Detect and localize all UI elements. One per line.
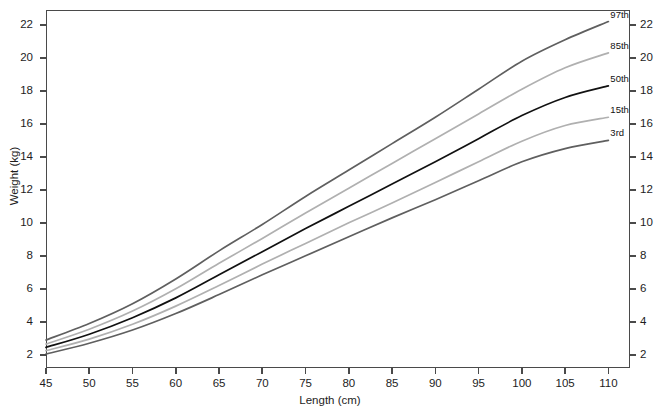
x-tick-mark-50 (88, 368, 90, 374)
y-tick-mark-right-18 (630, 90, 636, 92)
y-tick-label-right-20: 20 (640, 52, 653, 64)
y-tick-mark-left-16 (40, 123, 46, 125)
y-tick-label-left-6: 6 (0, 283, 33, 295)
series-label-85th: 85th (610, 41, 629, 51)
y-tick-label-right-16: 16 (640, 118, 653, 130)
series-label-50th: 50th (610, 74, 629, 84)
y-tick-label-right-22: 22 (640, 19, 653, 31)
x-tick-label-95: 95 (459, 378, 499, 390)
x-tick-label-90: 90 (415, 378, 455, 390)
x-tick-label-60: 60 (156, 378, 196, 390)
x-tick-label-80: 80 (329, 378, 369, 390)
x-tick-label-100: 100 (502, 378, 542, 390)
percentile-line-50th (46, 86, 608, 347)
y-tick-mark-left-10 (40, 222, 46, 224)
percentile-curves (46, 10, 630, 368)
x-tick-label-50: 50 (69, 378, 109, 390)
y-axis-title: Weight (kg) (8, 136, 20, 216)
growth-chart: 246810121416182022 246810121416182022 45… (0, 0, 660, 414)
y-tick-mark-left-14 (40, 156, 46, 158)
y-tick-label-left-16: 16 (0, 118, 33, 130)
y-tick-mark-right-6 (630, 288, 636, 290)
series-label-3rd: 3rd (610, 128, 624, 138)
y-tick-mark-left-12 (40, 189, 46, 191)
x-tick-mark-105 (564, 368, 566, 374)
y-tick-mark-left-4 (40, 321, 46, 323)
x-tick-label-75: 75 (286, 378, 326, 390)
x-tick-mark-85 (391, 368, 393, 374)
y-tick-mark-right-8 (630, 255, 636, 257)
series-label-15th: 15th (610, 105, 629, 115)
x-tick-label-85: 85 (372, 378, 412, 390)
x-tick-label-110: 110 (588, 378, 628, 390)
y-tick-label-right-10: 10 (640, 217, 653, 229)
y-tick-mark-right-20 (630, 57, 636, 59)
x-tick-mark-70 (261, 368, 263, 374)
y-tick-mark-left-6 (40, 288, 46, 290)
y-tick-label-right-4: 4 (640, 316, 646, 328)
percentile-line-3rd (46, 140, 608, 354)
x-axis-title: Length (cm) (0, 394, 660, 406)
y-tick-label-right-18: 18 (640, 85, 653, 97)
series-label-97th: 97th (610, 10, 629, 20)
y-tick-label-right-2: 2 (640, 349, 646, 361)
x-tick-mark-55 (132, 368, 134, 374)
y-tick-mark-left-20 (40, 57, 46, 59)
x-tick-label-55: 55 (113, 378, 153, 390)
x-tick-mark-95 (478, 368, 480, 374)
x-tick-mark-110 (608, 368, 610, 374)
y-tick-mark-right-10 (630, 222, 636, 224)
y-tick-label-right-12: 12 (640, 184, 653, 196)
x-tick-mark-45 (45, 368, 47, 374)
x-tick-label-70: 70 (242, 378, 282, 390)
y-tick-mark-right-12 (630, 189, 636, 191)
x-tick-mark-90 (435, 368, 437, 374)
y-tick-label-left-2: 2 (0, 349, 33, 361)
y-tick-mark-left-8 (40, 255, 46, 257)
y-tick-label-right-8: 8 (640, 250, 646, 262)
percentile-line-15th (46, 117, 608, 350)
y-tick-mark-right-2 (630, 354, 636, 356)
y-tick-label-left-20: 20 (0, 52, 33, 64)
percentile-line-97th (46, 22, 608, 340)
x-tick-label-45: 45 (26, 378, 66, 390)
y-tick-mark-left-2 (40, 354, 46, 356)
x-tick-mark-80 (348, 368, 350, 374)
y-tick-mark-right-22 (630, 24, 636, 26)
y-tick-mark-right-14 (630, 156, 636, 158)
x-tick-mark-60 (175, 368, 177, 374)
y-tick-label-left-8: 8 (0, 250, 33, 262)
x-tick-mark-75 (305, 368, 307, 374)
y-tick-label-right-6: 6 (640, 283, 646, 295)
y-tick-mark-right-4 (630, 321, 636, 323)
x-tick-mark-65 (218, 368, 220, 374)
y-tick-mark-left-22 (40, 24, 46, 26)
y-tick-label-left-22: 22 (0, 19, 33, 31)
y-tick-mark-left-18 (40, 90, 46, 92)
y-tick-label-left-18: 18 (0, 85, 33, 97)
x-tick-label-65: 65 (199, 378, 239, 390)
x-tick-label-105: 105 (545, 378, 585, 390)
y-tick-label-left-10: 10 (0, 217, 33, 229)
percentile-line-85th (46, 53, 608, 344)
x-tick-mark-100 (521, 368, 523, 374)
y-tick-mark-right-16 (630, 123, 636, 125)
y-tick-label-right-14: 14 (640, 151, 653, 163)
y-tick-label-left-4: 4 (0, 316, 33, 328)
